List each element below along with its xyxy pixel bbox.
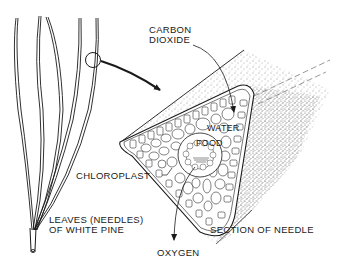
label-leaves-line2: OF WHITE PINE	[49, 225, 143, 235]
label-carbon-dioxide-line2: DIOXIDE	[149, 35, 191, 45]
label-chloroplast: CHLOROPLAST	[76, 171, 150, 181]
label-leaves: LEAVES (NEEDLES) OF WHITE PINE	[49, 215, 143, 235]
label-section-of-needle: SECTION OF NEEDLE	[210, 225, 314, 235]
label-food: FOOD	[196, 138, 223, 148]
zoom-arrow	[101, 61, 160, 90]
label-carbon-dioxide: CARBON DIOXIDE	[149, 25, 191, 45]
magnifier-circle	[86, 53, 101, 68]
label-oxygen: OXYGEN	[157, 248, 199, 258]
label-water: WATER	[207, 123, 240, 133]
needle-section	[120, 50, 330, 244]
